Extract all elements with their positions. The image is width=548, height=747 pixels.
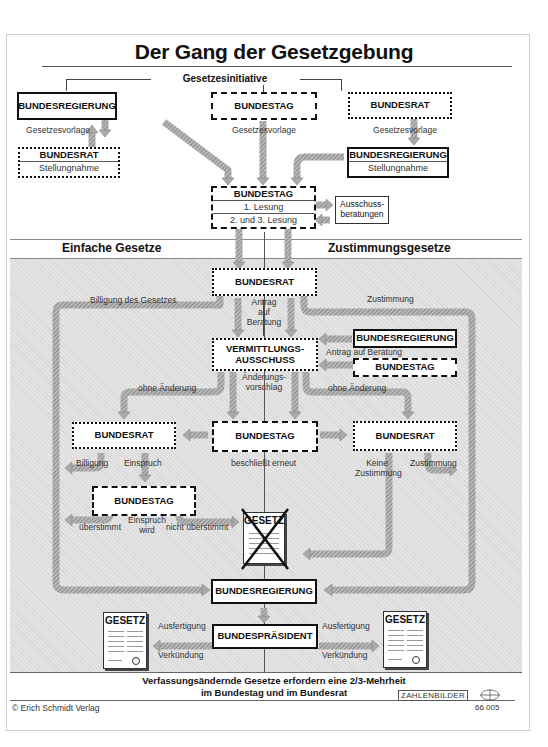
execution-right-label: Ausfertigung	[322, 622, 370, 632]
law-document-right: GESETZ	[383, 611, 427, 668]
zahlenbilder-logo-icon	[480, 689, 500, 701]
review-bundesrat: BUNDESRAT Stellungnahme	[18, 147, 120, 178]
bundestag-readings-title: BUNDESTAG	[234, 189, 293, 200]
bundestag-objection: BUNDESTAG	[92, 486, 196, 516]
bundesrat-left-label: BUNDESRAT	[95, 430, 154, 441]
initiator-bundestag: BUNDESTAG	[211, 92, 317, 120]
section-consent-laws: Zustimmungsgesetze	[328, 241, 451, 255]
amendment-proposal-label: Änderungs- vorschlag	[242, 373, 286, 393]
without-change-left: ohne Änderung	[138, 384, 196, 394]
consent-right-label: Zustimmung	[410, 459, 457, 469]
section-rule-bottom	[10, 258, 522, 259]
overruled-label: überstimmt	[79, 523, 121, 533]
brand-label: ZAHLENBILDER	[398, 690, 468, 701]
request-line	[263, 300, 264, 336]
no-consent-label: Keine Zustimmung	[355, 459, 399, 479]
execution-left-label: Ausfertigung	[158, 622, 206, 632]
page-title: Der Gang der Gesetzgebung	[0, 40, 548, 64]
approval-of-law-label: Billigung des Gesetzes	[90, 296, 176, 306]
publisher-credit: © Erich Schmidt Verlag	[12, 703, 100, 713]
initiative-line-left-drop	[66, 79, 67, 91]
objection-is-label: Einspruch wird	[125, 516, 169, 536]
without-change-right: ohne Änderung	[328, 384, 386, 394]
section-simple-laws: Einfache Gesetze	[62, 241, 161, 255]
footer-rule-top	[10, 672, 522, 673]
objection-label: Einspruch	[124, 459, 162, 469]
not-overruled-label: nicht überstimmt	[166, 523, 228, 533]
committee-deliberations: Ausschuss- beratungen	[335, 196, 389, 224]
bundestag-middle: BUNDESTAG	[212, 421, 318, 452]
approval-label: Billigung	[76, 459, 108, 469]
initiative-line-center-drop	[263, 85, 264, 92]
bundespraesident: BUNDESPRÄSIDENT	[212, 624, 318, 649]
initiator-bundestag-label: BUNDESTAG	[234, 101, 293, 112]
initiative-line-right-drop	[341, 79, 342, 91]
bundestag-objection-label: BUNDESTAG	[114, 496, 173, 507]
initiator-bundesrat-label: BUNDESRAT	[371, 100, 430, 111]
chart-number: 66 005	[475, 703, 499, 712]
bundesrat-right: BUNDESRAT	[353, 421, 457, 451]
law-document-right-title: GESETZ	[384, 614, 426, 625]
bundespraesident-label: BUNDESPRÄSIDENT	[217, 631, 312, 642]
initiative-line-left	[66, 79, 151, 80]
request-for-deliberation-horizontal: Antrag auf Beratung	[326, 348, 402, 358]
review-bundesrat-sub: Stellungnahme	[20, 161, 118, 174]
promulgation-left-label: Verkündung	[158, 651, 203, 661]
seal-icon	[412, 656, 420, 664]
bundesregierung-final-label: BUNDESREGIERUNG	[215, 586, 313, 597]
review-bundesrat-label: BUNDESRAT	[40, 150, 99, 161]
review-bundesregierung: BUNDESREGIERUNG Stellungnahme	[347, 147, 449, 178]
failed-law-document: GESETZ	[243, 512, 285, 564]
requester-bundesregierung-label: BUNDESREGIERUNG	[356, 333, 454, 344]
bundestag-middle-label: BUNDESTAG	[235, 431, 294, 442]
second-third-reading: 2. und 3. Lesung	[213, 213, 314, 226]
title-rule	[42, 66, 512, 67]
review-bundesregierung-label: BUNDESREGIERUNG	[349, 150, 447, 161]
initiator-bundesregierung-label: BUNDESREGIERUNG	[18, 101, 116, 112]
bundesrat-first-label: BUNDESRAT	[235, 277, 294, 288]
requester-bundestag: BUNDESTAG	[353, 358, 457, 377]
footer-note-line1: Verfassungsändernde Gesetze erfordern ei…	[0, 675, 548, 686]
bundesrat-left: BUNDESRAT	[72, 422, 176, 449]
mediation-committee: VERMITTLUNGS- AUSSCHUSS	[212, 338, 318, 371]
cross-out-icon	[240, 507, 290, 571]
consent-top-label: Zustimmung	[367, 295, 414, 305]
gesetzesvorlage-left: Gesetzesvorlage	[18, 126, 98, 136]
first-reading: 1. Lesung	[213, 200, 314, 213]
requester-bundesregierung: BUNDESREGIERUNG	[353, 329, 457, 348]
bundesrat-right-label: BUNDESRAT	[376, 431, 435, 442]
initiative-line-right	[300, 79, 341, 80]
bundestag-readings: BUNDESTAG 1. Lesung 2. und 3. Lesung	[211, 186, 316, 229]
request-for-deliberation-vertical: Antrag auf Beratung	[246, 298, 282, 327]
gesetzesvorlage-right: Gesetzesvorlage	[365, 126, 445, 136]
requester-bundestag-label: BUNDESTAG	[375, 362, 434, 373]
initiator-bundesrat: BUNDESRAT	[348, 92, 452, 119]
initiator-bundesregierung: BUNDESREGIERUNG	[17, 92, 117, 120]
review-bundesregierung-sub: Stellungnahme	[349, 161, 447, 174]
bundesrat-first: BUNDESRAT	[212, 268, 317, 296]
seal-icon	[132, 657, 140, 665]
decides-again-label: beschließt erneut	[231, 459, 296, 469]
law-document-left: GESETZ	[103, 612, 147, 669]
bundesregierung-final: BUNDESREGIERUNG	[211, 579, 317, 604]
promulgation-right-label: Verkündung	[322, 651, 367, 661]
law-document-left-title: GESETZ	[104, 615, 146, 626]
gesetzesvorlage-center: Gesetzesvorlage	[224, 126, 304, 136]
initiative-label: Gesetzesinitiative	[150, 73, 300, 85]
